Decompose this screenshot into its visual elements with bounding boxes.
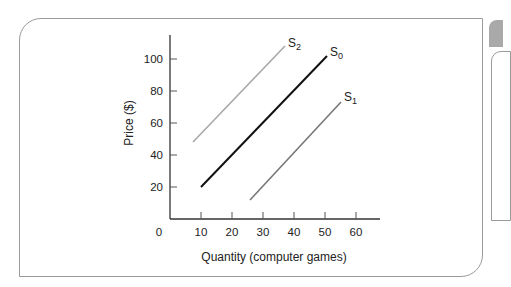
y-ticks [170, 59, 177, 187]
y-tick-label: 60 [150, 117, 163, 129]
label-s2: S2 [288, 36, 301, 52]
x-tick-label: 30 [257, 226, 270, 238]
x-tick-label: 40 [288, 226, 301, 238]
y-tick-label: 80 [150, 85, 163, 97]
y-tick-label: 20 [150, 181, 163, 193]
label-s1: S1 [344, 90, 357, 106]
x-tick-labels: 0 10 20 30 40 50 60 [156, 226, 363, 238]
label-s0: S0 [330, 45, 343, 61]
y-tick-labels: 100 80 60 40 20 [144, 53, 163, 193]
supply-curve-s1 [250, 102, 341, 200]
x-axis-title: Quantity (computer games) [201, 250, 346, 264]
x-ticks [201, 212, 356, 219]
x-tick-label: 20 [226, 226, 239, 238]
y-axis-title: Price ($) [122, 100, 136, 145]
x-tick-label: 50 [319, 226, 332, 238]
x-tick-label: 0 [156, 226, 162, 238]
x-tick-label: 60 [350, 226, 363, 238]
supply-curve-s0 [201, 56, 327, 187]
y-tick-label: 40 [150, 149, 163, 161]
y-tick-label: 100 [144, 53, 163, 65]
supply-curve-s2 [193, 46, 285, 142]
x-tick-label: 10 [195, 226, 208, 238]
